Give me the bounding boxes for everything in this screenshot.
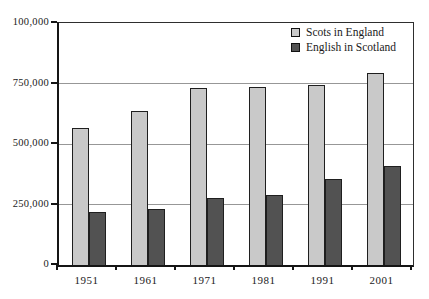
gridline — [59, 83, 413, 84]
legend-swatch-scots-in-england — [291, 28, 300, 37]
legend: Scots in England English in Scotland — [291, 25, 396, 55]
bar-scots-in-england-1951 — [72, 128, 89, 265]
x-axis-tick — [174, 265, 176, 270]
x-axis-tick — [233, 265, 235, 270]
legend-label-english-in-scotland: English in Scotland — [306, 40, 396, 54]
bar-english-in-scotland-1991 — [325, 179, 342, 265]
y-axis-tick-label: 100,000 — [0, 16, 49, 28]
x-axis-tick — [351, 265, 353, 270]
plot-area — [57, 22, 414, 267]
y-axis-tick — [51, 82, 57, 84]
x-axis-tick — [292, 265, 294, 270]
y-axis-tick — [51, 142, 57, 144]
bar-chart: Scots in England English in Scotland 025… — [0, 0, 429, 299]
y-axis-tick-label: 500,000 — [0, 137, 49, 149]
x-axis-tick-label: 1961 — [116, 273, 175, 287]
x-axis-tick — [56, 265, 58, 270]
y-axis-tick — [51, 21, 57, 23]
bar-scots-in-england-1971 — [190, 88, 207, 265]
x-axis-tick-label: 2001 — [352, 273, 411, 287]
bar-scots-in-england-1991 — [308, 85, 325, 265]
legend-item-scots-in-england: Scots in England — [291, 25, 396, 39]
legend-label-scots-in-england: Scots in England — [306, 25, 384, 39]
legend-item-english-in-scotland: English in Scotland — [291, 40, 396, 54]
legend-swatch-english-in-scotland — [291, 43, 300, 52]
x-axis-tick-label: 1951 — [57, 273, 116, 287]
gridline — [59, 204, 413, 205]
y-axis-tick-label: 250,000 — [0, 198, 49, 210]
bar-scots-in-england-1961 — [131, 111, 148, 265]
bar-english-in-scotland-2001 — [384, 166, 401, 265]
x-axis-tick-label: 1971 — [175, 273, 234, 287]
bar-english-in-scotland-1951 — [89, 212, 106, 265]
x-axis-tick — [115, 265, 117, 270]
x-axis-tick-label: 1981 — [234, 273, 293, 287]
bar-english-in-scotland-1961 — [148, 209, 165, 265]
y-axis-tick-label: 750,000 — [0, 77, 49, 89]
bar-scots-in-england-2001 — [367, 73, 384, 265]
y-axis-tick-label: 0 — [0, 258, 49, 270]
y-axis-tick — [51, 203, 57, 205]
bar-scots-in-england-1981 — [249, 87, 266, 265]
x-axis-tick-label: 1991 — [293, 273, 352, 287]
bar-english-in-scotland-1971 — [207, 198, 224, 265]
gridline — [59, 144, 413, 145]
x-axis-tick — [410, 265, 412, 270]
bar-english-in-scotland-1981 — [266, 195, 283, 265]
